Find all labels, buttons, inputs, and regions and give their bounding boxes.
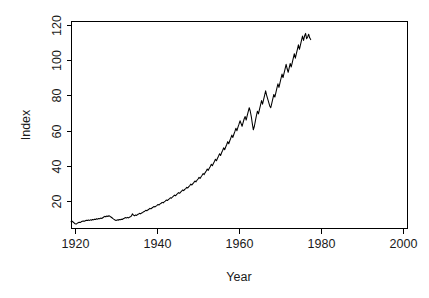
y-tick-label: 20	[50, 195, 64, 209]
y-axis-title: Index	[19, 109, 33, 140]
x-tick-label: 1940	[144, 237, 172, 251]
y-tick-label: 40	[50, 160, 64, 174]
x-tick-label: 2000	[390, 237, 418, 251]
chart-figure: 19201940196019802000 20406080100120 Year…	[0, 0, 429, 298]
x-axis-title: Year	[226, 270, 251, 284]
chart-background	[0, 0, 429, 298]
y-tick-label: 100	[50, 50, 64, 71]
x-tick-label: 1920	[62, 237, 90, 251]
y-tick-label: 60	[50, 125, 64, 139]
x-tick-label: 1980	[308, 237, 336, 251]
y-tick-label: 80	[50, 89, 64, 103]
y-tick-label: 120	[50, 15, 64, 36]
x-tick-label: 1960	[226, 237, 254, 251]
index-vs-year-line-chart: 19201940196019802000 20406080100120 Year…	[0, 0, 429, 298]
